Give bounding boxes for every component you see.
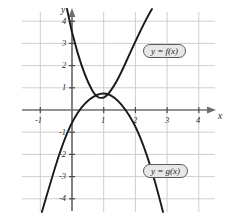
y-tick-label: -3 bbox=[59, 172, 66, 181]
curve-f bbox=[67, 9, 152, 98]
y-tick-label: -2 bbox=[59, 150, 66, 159]
y-tick-label: 3 bbox=[62, 39, 66, 48]
graph-figure: y x -1 1 2 3 4 4 3 2 1 -1 -2 -3 -4 y = f… bbox=[0, 0, 233, 219]
y-tick-label: 2 bbox=[62, 61, 66, 70]
y-tick-label: -1 bbox=[59, 128, 66, 137]
y-tick-label: 1 bbox=[62, 83, 66, 92]
x-tick-label: -1 bbox=[35, 116, 42, 125]
x-tick-label: 4 bbox=[196, 116, 200, 125]
x-tick-label: 1 bbox=[101, 116, 105, 125]
y-axis-label: y bbox=[61, 6, 65, 16]
x-axis-label: x bbox=[218, 112, 222, 122]
y-tick-label: 4 bbox=[62, 17, 66, 26]
curve-label-g: y = g(x) bbox=[143, 164, 188, 178]
curve-label-f: y = f(x) bbox=[143, 44, 186, 58]
y-tick-label: -4 bbox=[59, 194, 66, 203]
x-tick-label: 2 bbox=[133, 116, 137, 125]
x-axis-arrowhead bbox=[207, 107, 216, 114]
plot-canvas bbox=[0, 0, 233, 219]
y-axis-arrowhead bbox=[69, 8, 76, 17]
x-tick-label: 3 bbox=[165, 116, 169, 125]
